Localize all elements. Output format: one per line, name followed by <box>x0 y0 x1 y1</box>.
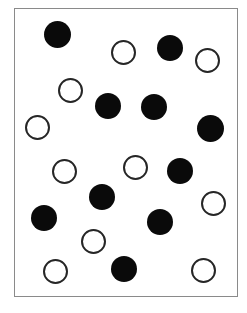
filled-circle-marker <box>31 205 57 231</box>
figure-root <box>0 0 247 313</box>
open-circle-marker <box>43 259 68 284</box>
open-circle-marker <box>58 78 83 103</box>
filled-circle-marker <box>141 94 167 120</box>
filled-circle-marker <box>157 35 183 61</box>
open-circle-marker <box>111 40 136 65</box>
filled-circle-marker <box>147 209 173 235</box>
filled-circle-marker <box>167 158 193 184</box>
filled-circle-marker <box>197 115 224 142</box>
open-circle-marker <box>191 258 216 283</box>
filled-circle-marker <box>111 256 137 282</box>
open-circle-marker <box>201 191 226 216</box>
filled-circle-marker <box>89 184 115 210</box>
open-circle-marker <box>81 229 106 254</box>
open-circle-marker <box>195 48 220 73</box>
open-circle-marker <box>52 159 77 184</box>
open-circle-marker <box>25 115 50 140</box>
filled-circle-marker <box>95 93 121 119</box>
open-circle-marker <box>123 155 148 180</box>
filled-circle-marker <box>44 21 71 48</box>
